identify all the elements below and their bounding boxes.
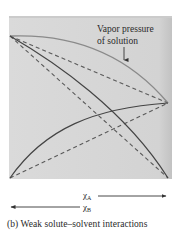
annotation-line-1: Vapor pressure: [97, 24, 154, 34]
figure-caption: (b) Weak solute–solvent interactions: [7, 219, 147, 229]
annotation-line-2: of solution: [97, 36, 138, 46]
plot-panel: [9, 16, 172, 179]
plot-panel-top-edge: [9, 16, 172, 18]
axis-label-chi-b: χB: [82, 202, 91, 213]
axis-label-chi-a: χA: [82, 190, 92, 201]
vapor-pressure-diagram: Vapor pressure of solution χA χB: [0, 0, 184, 235]
